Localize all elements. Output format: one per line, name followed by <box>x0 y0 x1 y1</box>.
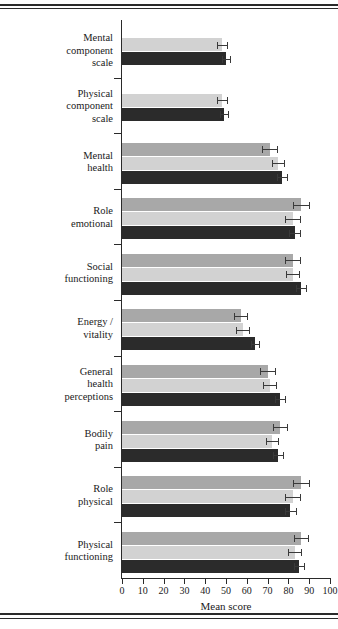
error-bar-cap <box>287 174 288 181</box>
error-bar-cap <box>228 111 229 118</box>
error-bar-cap <box>296 285 297 292</box>
bar-medium-gray <box>122 143 270 156</box>
error-bar-cap <box>299 271 300 278</box>
category-label-role-physical: Rolephysical <box>13 483 113 508</box>
error-bar-cap <box>275 368 276 375</box>
category-label-line: functioning <box>13 273 113 286</box>
category-label-line: Social <box>13 261 113 274</box>
error-bar-cap <box>285 508 286 515</box>
error-bar-cap <box>222 56 223 63</box>
x-axis-tick <box>268 578 269 584</box>
x-axis-tick <box>288 578 289 584</box>
bar-dark <box>122 226 295 239</box>
error-bar-cap <box>285 396 286 403</box>
bar-light-gray <box>122 546 295 559</box>
x-axis-title: Mean score <box>121 600 331 612</box>
error-bar <box>222 59 230 60</box>
category-label-line: scale <box>13 113 113 126</box>
error-bar <box>288 552 300 553</box>
error-bar <box>289 233 299 234</box>
error-bar <box>293 483 310 484</box>
category-label-line: perceptions <box>13 391 113 404</box>
bar-medium-gray <box>122 532 301 545</box>
error-bar <box>285 511 295 512</box>
category-label-physical-component-scale: Physicalcomponentscale <box>13 88 113 126</box>
x-axis-tick <box>330 578 331 584</box>
error-bar-cap <box>234 313 235 320</box>
error-bar-cap <box>304 563 305 570</box>
category-label-line: health <box>13 162 113 175</box>
error-bar-cap <box>288 549 289 556</box>
error-bar <box>286 274 298 275</box>
category-label-line: Bodily <box>13 428 113 441</box>
category-label-physical-functioning: Physicalfunctioning <box>13 539 113 564</box>
error-bar <box>234 316 246 317</box>
error-bar-cap <box>300 230 301 237</box>
error-bar-cap <box>285 216 286 223</box>
y-axis-group-tick <box>114 522 121 523</box>
category-label-social-functioning: Socialfunctioning <box>13 261 113 286</box>
error-bar-cap <box>236 327 237 334</box>
bar-light-gray <box>122 212 293 225</box>
error-bar-cap <box>266 438 267 445</box>
error-bar-cap <box>272 160 273 167</box>
error-bar-cap <box>287 424 288 431</box>
bar-chart: 0102030405060708090100 Mentalcomponentsc… <box>0 0 338 629</box>
category-label-general-health-perceptions: Generalhealthperceptions <box>13 366 113 404</box>
category-label-line: Role <box>13 205 113 218</box>
error-bar-cap <box>286 271 287 278</box>
bar-medium-gray <box>122 254 293 267</box>
category-label-mental-component-scale: Mentalcomponentscale <box>13 32 113 70</box>
bar-dark <box>122 393 280 406</box>
error-bar <box>275 399 285 400</box>
y-axis-group-tick <box>114 244 121 245</box>
error-bar-cap <box>247 313 248 320</box>
error-bar-cap <box>301 549 302 556</box>
error-bar-cap <box>227 42 228 49</box>
error-bar-cap <box>300 216 301 223</box>
error-bar-cap <box>276 382 277 389</box>
bar-dark <box>122 108 224 121</box>
error-bar-cap <box>277 174 278 181</box>
error-bar-cap <box>275 396 276 403</box>
x-axis-tick <box>247 578 248 584</box>
error-bar-cap <box>289 230 290 237</box>
error-bar-cap <box>278 438 279 445</box>
error-bar <box>217 100 227 101</box>
bar-medium-gray <box>122 421 280 434</box>
error-bar <box>236 330 248 331</box>
category-label-line: Mental <box>13 32 113 45</box>
error-bar-cap <box>300 257 301 264</box>
error-bar <box>294 538 309 539</box>
error-bar-cap <box>277 146 278 153</box>
error-bar <box>251 344 259 345</box>
category-label-line: Energy / <box>13 316 113 329</box>
bar-medium-gray <box>122 309 241 322</box>
error-bar-cap <box>294 563 295 570</box>
bar-dark <box>122 52 226 65</box>
x-axis-tick <box>164 578 165 584</box>
x-axis-tick <box>309 578 310 584</box>
error-bar <box>217 45 227 46</box>
bar-medium-gray <box>122 476 301 489</box>
error-bar <box>273 427 288 428</box>
bar-light-gray <box>122 490 293 503</box>
error-bar <box>220 114 228 115</box>
error-bar <box>260 371 275 372</box>
category-label-line: General <box>13 366 113 379</box>
bar-dark <box>122 449 278 462</box>
error-bar-cap <box>284 160 285 167</box>
error-bar-cap <box>262 146 263 153</box>
y-axis-group-tick <box>114 356 121 357</box>
x-axis-tick <box>122 578 123 584</box>
error-bar-cap <box>251 341 252 348</box>
category-label-line: Physical <box>13 539 113 552</box>
y-axis-group-tick <box>114 467 121 468</box>
error-bar-cap <box>293 480 294 487</box>
category-label-bodily-pain: Bodilypain <box>13 428 113 453</box>
y-axis-group-tick <box>114 411 121 412</box>
bar-light-gray <box>122 94 222 107</box>
error-bar <box>285 260 300 261</box>
error-bar <box>277 177 287 178</box>
x-axis-tick <box>143 578 144 584</box>
